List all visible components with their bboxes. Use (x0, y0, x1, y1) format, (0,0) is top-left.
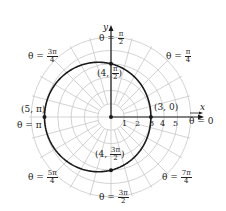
r-tick-4: 4 (160, 119, 165, 128)
angle-label-5pi-over-4: θ = 5π4 (28, 170, 58, 185)
angle-label-3pi-over-2: θ = 3π2 (99, 190, 129, 205)
grid-ray (90, 130, 108, 196)
grid-ray (114, 130, 132, 196)
point-label-3-0: (3, 0) (154, 103, 178, 112)
r-tick-5: 5 (173, 119, 178, 128)
point-label-4-pi-over-2: (4, π2) (97, 66, 122, 81)
angle-label-pi: θ = π (17, 121, 42, 130)
angle-label-pi-over-4: θ = π4 (166, 49, 191, 64)
grid-ray (124, 120, 190, 138)
point-label-4-3pi-over-2: (4, 3π2) (95, 147, 125, 162)
point-marker-p-5-pi (43, 115, 47, 119)
r-tick-1: 1 (122, 119, 127, 128)
r-tick-3: 3 (149, 119, 154, 128)
grid-ray (32, 120, 98, 138)
angle-label-3pi-over-4: θ = 3π4 (28, 49, 58, 64)
point-marker-p-4-3pi2 (109, 168, 113, 172)
angle-label-pi-over-2: θ = π2 (99, 31, 124, 46)
angle-label-0: θ = 0 (189, 117, 213, 126)
point-label-5-pi: (5, π) (21, 105, 45, 114)
x-axis-label: x (200, 103, 205, 112)
angle-label-7pi-over-4: θ = 7π4 (162, 170, 192, 185)
origin-dot (109, 115, 113, 119)
r-tick-2: 2 (135, 119, 140, 128)
polar-graph: y x 1 2 3 4 5 θ = 0 θ = π4 θ = π2 θ = 3π… (0, 0, 226, 211)
